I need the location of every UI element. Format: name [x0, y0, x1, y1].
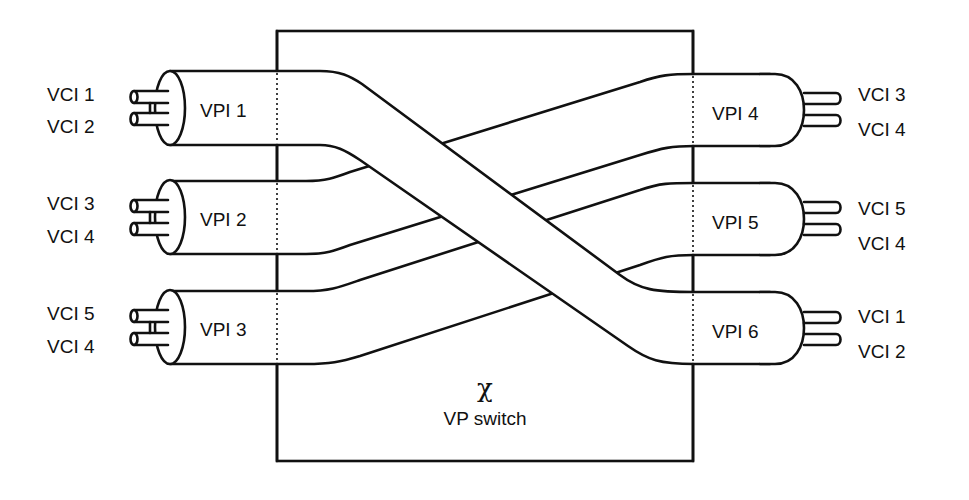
right-vci-label: VCI 2	[858, 341, 906, 362]
left-vci-label: VCI 4	[47, 336, 95, 357]
left-vci-label: VCI 1	[47, 84, 95, 105]
left-vci-label: VCI 5	[47, 303, 95, 324]
right-vpi-label: VPI 5	[712, 212, 758, 233]
left-vpi-label: VPI 3	[200, 319, 246, 340]
left-port-vpi2	[131, 180, 186, 254]
right-vci-label: VCI 3	[858, 84, 906, 105]
vci-rod-3	[131, 200, 171, 212]
left-vci-label: VCI 3	[47, 193, 95, 214]
vci-rod-2	[131, 113, 171, 125]
switch-symbol: χ	[477, 373, 493, 403]
left-port-vpi1	[131, 71, 186, 145]
right-vpi-label: VPI 4	[712, 103, 759, 124]
left-vci-label: VCI 2	[47, 116, 95, 137]
right-vci-label: VCI 4	[858, 233, 906, 254]
vci-rod-4	[131, 223, 171, 235]
vci-rod-5	[131, 310, 171, 322]
right-vpi-label: VPI 6	[712, 321, 758, 342]
right-vci-label: VCI 4	[858, 119, 906, 140]
right-vci-label: VCI 5	[858, 198, 906, 219]
switch-label: VP switch	[443, 408, 526, 429]
left-vpi-label: VPI 1	[200, 100, 246, 121]
right-vci-label: VCI 1	[858, 306, 906, 327]
left-port-vpi3	[131, 290, 186, 364]
vp-switch-diagram: VCI 1 VCI 2 VCI 3 VCI 4 VCI 5 VCI 4 VPI …	[0, 0, 969, 500]
left-vpi-label: VPI 2	[200, 209, 246, 230]
left-vci-label: VCI 4	[47, 226, 95, 247]
vci-rod-1	[131, 91, 171, 103]
vci-rod-4b	[131, 333, 171, 345]
